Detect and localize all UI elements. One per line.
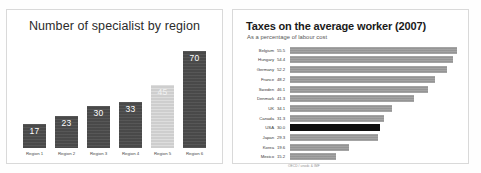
vertical-bar: 30 (87, 106, 110, 148)
table-row: France48.2 (244, 75, 458, 83)
vertical-bar: 70 (183, 51, 206, 148)
country-value-label: 29.3 (277, 135, 290, 140)
country-label: USA (244, 125, 277, 130)
x-axis-tick-label: Region 1 (23, 151, 46, 156)
bar-track (290, 115, 458, 122)
horizontal-bar (290, 66, 447, 73)
table-row: Hungary54.4 (244, 56, 458, 64)
bar-value-label: 33 (119, 104, 142, 114)
vertical-bar: 45 (151, 85, 174, 147)
bar-column: 30 (87, 106, 110, 148)
x-axis-tick-label: Region 6 (183, 151, 206, 156)
horizontal-bar (290, 56, 453, 63)
country-value-label: 41.3 (277, 96, 290, 101)
horizontal-bar (290, 76, 435, 83)
country-value-label: 31.3 (277, 116, 290, 121)
table-row: Canada31.3 (244, 114, 458, 122)
horizontal-bar (290, 95, 414, 102)
bar-column: 23 (55, 116, 78, 148)
country-label: France (244, 77, 277, 82)
bar-value-label: 17 (23, 126, 46, 136)
country-value-label: 15.2 (277, 154, 290, 159)
country-value-label: 55.5 (277, 48, 290, 53)
left-chart-x-axis: Region 1Region 2Region 3Region 4Region 5… (15, 151, 214, 156)
table-row: Sweden46.1 (244, 85, 458, 93)
bar-track (290, 144, 458, 151)
horizontal-bar (290, 47, 457, 54)
right-chart-plot-area: Belgium55.5Hungary54.4Germany52.2France4… (244, 46, 458, 161)
vertical-bar: 33 (119, 102, 142, 148)
bar-track (290, 124, 458, 131)
horizontal-bar (290, 105, 392, 112)
x-axis-tick-label: Region 2 (55, 151, 78, 156)
chart-card-taxes: Taxes on the average worker (2007) As a … (232, 9, 469, 164)
country-value-label: 46.1 (277, 87, 290, 92)
bar-track (290, 76, 458, 83)
slide-canvas: Number of specialist by region 172330334… (0, 0, 481, 173)
table-row: Japan29.3 (244, 133, 458, 141)
table-row: USA30.0 (244, 124, 458, 132)
bar-value-label: 70 (183, 53, 206, 63)
vertical-bar: 17 (23, 124, 46, 148)
table-row: Mexico15.2 (244, 153, 458, 161)
bar-value-label: 30 (87, 108, 110, 118)
country-label: Denmark (244, 96, 277, 101)
bar-track (290, 134, 458, 141)
country-label: Germany (244, 67, 277, 72)
chart-card-specialists: Number of specialist by region 172330334… (6, 9, 223, 164)
left-chart-plot-area: 172330334570 (15, 40, 214, 148)
bar-column: 45 (151, 85, 174, 147)
bar-track (290, 47, 458, 54)
country-value-label: 52.2 (277, 67, 290, 72)
bar-track (290, 95, 458, 102)
country-label: Canada (244, 116, 277, 121)
bar-track (290, 56, 458, 63)
bar-value-label: 45 (151, 87, 174, 97)
table-row: UK34.1 (244, 104, 458, 112)
country-value-label: 30.0 (277, 125, 290, 130)
bar-track (290, 153, 458, 160)
right-chart-subtitle: As a percentage of labour cost (247, 34, 458, 40)
horizontal-bar (290, 124, 380, 131)
bar-column: 17 (23, 124, 46, 148)
horizontal-bar (290, 115, 384, 122)
right-chart-footnote: OECD / unodc & IMF (288, 164, 458, 168)
bar-track (290, 86, 458, 93)
table-row: Belgium55.5 (244, 46, 458, 54)
country-value-label: 48.2 (277, 77, 290, 82)
bar-track (290, 105, 458, 112)
country-label: Japan (244, 135, 277, 140)
country-value-label: 54.4 (277, 57, 290, 62)
x-axis-tick-label: Region 5 (151, 151, 174, 156)
country-label: Mexico (244, 154, 277, 159)
horizontal-bar (290, 134, 378, 141)
horizontal-bar (290, 153, 336, 160)
horizontal-bar (290, 144, 349, 151)
country-value-label: 34.1 (277, 106, 290, 111)
country-label: UK (244, 106, 277, 111)
x-axis-tick-label: Region 3 (87, 151, 110, 156)
country-label: Sweden (244, 87, 277, 92)
country-label: Belgium (244, 48, 277, 53)
right-chart-title: Taxes on the average worker (2007) (246, 20, 458, 32)
vertical-bar: 23 (55, 116, 78, 148)
horizontal-bar (290, 86, 428, 93)
bar-track (290, 66, 458, 73)
bar-value-label: 23 (55, 118, 78, 128)
table-row: Germany52.2 (244, 65, 458, 73)
bar-column: 70 (183, 51, 206, 148)
country-label: Hungary (244, 57, 277, 62)
left-chart-title: Number of specialist by region (15, 20, 214, 34)
country-label: Korea (244, 145, 277, 150)
bar-column: 33 (119, 102, 142, 148)
x-axis-tick-label: Region 4 (119, 151, 142, 156)
table-row: Denmark41.3 (244, 95, 458, 103)
table-row: Korea19.6 (244, 143, 458, 151)
country-value-label: 19.6 (277, 145, 290, 150)
